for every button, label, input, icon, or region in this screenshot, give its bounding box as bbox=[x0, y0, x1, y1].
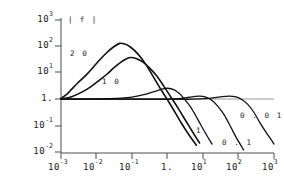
y-tick-marks bbox=[55, 20, 61, 152]
curve-label-20: 2 0 bbox=[70, 50, 88, 58]
curve-0.01 bbox=[61, 96, 274, 144]
data-curves bbox=[61, 43, 274, 150]
y-tick-label-0.01: 10-2 bbox=[20, 147, 53, 156]
curve-label-1: 1 bbox=[196, 127, 202, 135]
x-tick-label-100: 102 bbox=[226, 163, 242, 172]
y-tick-label-0.1: 10-1 bbox=[20, 121, 53, 130]
curve-0.1 bbox=[61, 96, 244, 150]
y-axis-caption: | f | bbox=[68, 16, 98, 24]
curve-10 bbox=[61, 57, 200, 142]
curve-label-0.1: 0 . 1 bbox=[222, 139, 253, 147]
curve-label-10: 1 0 bbox=[102, 78, 120, 86]
y-tick-label-1: 1. bbox=[20, 94, 53, 103]
x-tick-label-1000: 103 bbox=[262, 163, 278, 172]
chart-figure: 103 102 101 1. 10-1 10-2 10-3 10-2 10-1 … bbox=[0, 0, 284, 180]
x-tick-label-0.001: 10-3 bbox=[48, 163, 68, 172]
curve-label-0.01: 0 . 0 1 bbox=[240, 112, 283, 120]
y-tick-label-1000: 103 bbox=[20, 15, 53, 24]
x-tick-marks bbox=[61, 153, 274, 159]
x-tick-label-0.01: 10-2 bbox=[83, 163, 103, 172]
y-tick-label-100: 102 bbox=[20, 41, 53, 50]
x-tick-label-0.1: 10-1 bbox=[119, 163, 139, 172]
y-tick-label-10: 101 bbox=[20, 67, 53, 76]
x-tick-label-10: 101 bbox=[191, 163, 207, 172]
x-tick-label-1: 1. bbox=[161, 163, 173, 172]
